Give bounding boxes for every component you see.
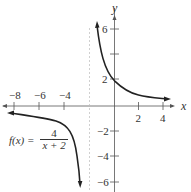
x-tick-label: −6 [34,89,46,101]
y-tick-label: 2 [102,73,108,85]
y-tick-label: 6 [102,23,108,35]
formula-fraction: 4 x + 2 [40,128,67,151]
x-tick-label: −4 [59,89,71,101]
y-tick-label: −2 [97,125,109,137]
function-label: f(x) = 4 x + 2 [9,128,68,151]
x-tick-label: 4 [160,112,166,124]
formula-numerator: 4 [49,128,59,139]
y-tick-label: −6 [97,176,109,188]
y-axis-label: y [111,1,118,15]
x-tick-label: 2 [136,112,142,124]
x-axis-label: x [180,99,187,113]
y-tick-label: −4 [97,150,109,162]
formula-lhs: f(x) = [9,134,34,146]
graph-canvas: −8 −6 −4 2 4 6 2 −2 −4 −6 x y [0,0,191,192]
x-tick-label: −8 [9,89,21,101]
right-branch-curve [97,26,168,99]
formula-denominator: x + 2 [40,139,67,151]
